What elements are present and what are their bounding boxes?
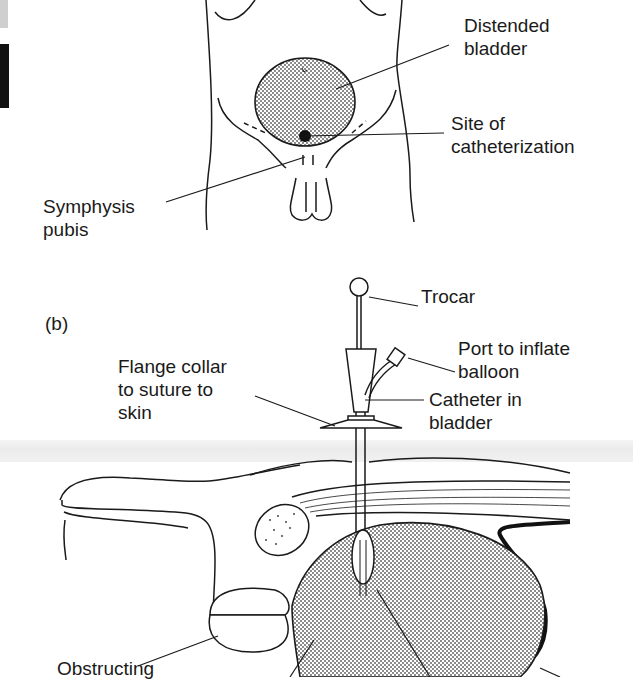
panel-letter-b: (b) [45,312,68,335]
label-symphysis-pubis: Symphysis pubis [43,195,135,241]
catheter-balloon [352,530,374,584]
label-flange-collar: Flange collar to suture to skin [118,355,227,424]
label-distended-bladder: Distended bladder [464,14,550,60]
pubic-bone [245,494,318,565]
label-trocar: Trocar [421,285,475,308]
label-obstructing: Obstructing [57,657,154,680]
label-port-to-inflate-balloon: Port to inflate balloon [458,337,570,383]
obstructing-prostate [209,588,289,652]
label-site-of-catheterization: Site of catheterization [451,112,575,158]
label-catheter-in-bladder: Catheter in bladder [429,388,522,434]
